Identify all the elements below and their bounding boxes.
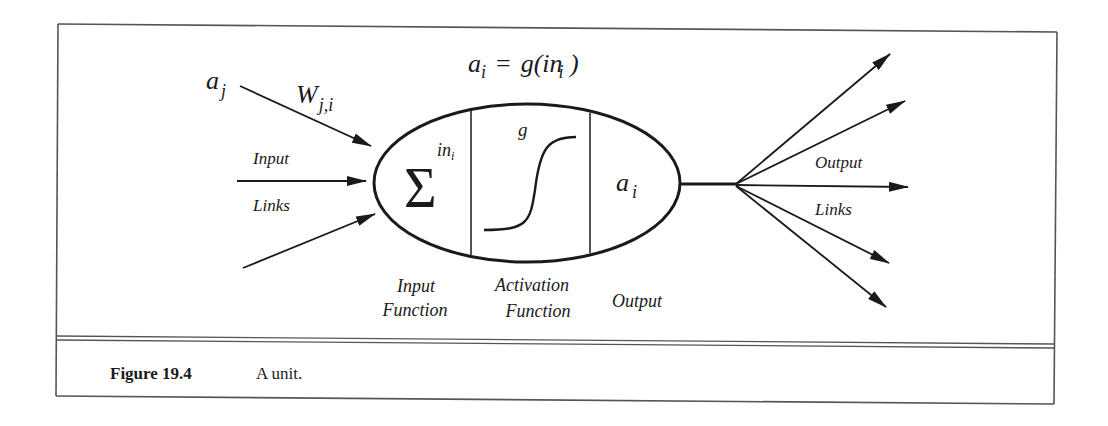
input-links (237, 86, 375, 268)
input-function-label-line1: Input (396, 276, 436, 296)
figure-caption: A unit. (256, 364, 302, 383)
output-arrow-4 (736, 186, 889, 263)
figure-number: Figure 19.4 (110, 364, 192, 383)
activation-function-label: g (518, 119, 528, 140)
activation-equation: ai=g(ini ) (468, 49, 579, 82)
input-activation-label: aj (206, 66, 226, 101)
output-links-label-line2: Links (814, 200, 852, 219)
input-links-label-line2: Links (252, 196, 290, 215)
caption-divider-bottom (57, 340, 1055, 348)
output-links (736, 54, 908, 307)
sum-output-label: ini (437, 140, 454, 163)
output-function-label: Output (612, 291, 663, 311)
input-function-label-line2: Function (382, 300, 448, 320)
weight-label: Wj,i (296, 80, 333, 115)
output-links-label-line1: Output (815, 153, 864, 172)
sigmoid-curve-icon (484, 137, 576, 230)
unit-output-label: ai (616, 168, 637, 202)
output-arrow-5 (736, 186, 886, 307)
neural-unit-figure: ai=g(ini ) aj Wj,i Input Links Σ ini g a… (0, 0, 1108, 426)
caption-divider-top (57, 336, 1055, 344)
input-arrow-bottom (243, 214, 375, 268)
sum-icon: Σ (404, 157, 437, 219)
input-links-label-line1: Input (252, 149, 290, 168)
output-arrow-3 (736, 185, 908, 187)
activation-function-caption-line2: Function (505, 301, 571, 321)
activation-function-caption-line1: Activation (494, 275, 569, 295)
